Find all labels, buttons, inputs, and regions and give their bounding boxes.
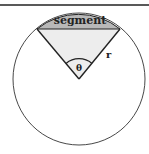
segment-label: segment [54, 14, 108, 27]
angle-label: θ [76, 63, 82, 73]
radius-label: r [106, 49, 112, 60]
segment-diagram: segment r θ [0, 0, 149, 154]
